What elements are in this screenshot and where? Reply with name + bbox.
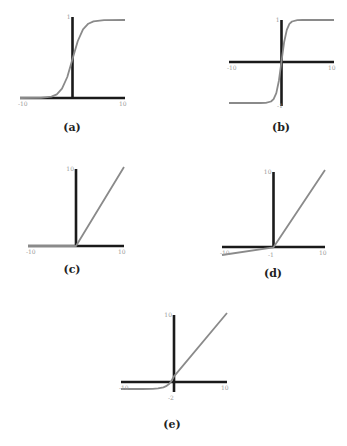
subplot-c: -101010(c) — [26, 165, 126, 276]
tick-label-x-min: -10 — [119, 384, 129, 391]
subplot-caption: (d) — [264, 267, 282, 280]
subplot-caption: (c) — [63, 263, 80, 276]
tick-label-y-min: -1 — [268, 251, 274, 258]
tick-label-x-max: 10 — [119, 100, 127, 107]
tick-label-x-min: -10 — [220, 249, 230, 256]
tick-label-y-min: -1 — [277, 102, 283, 109]
subplot-caption: (e) — [163, 418, 180, 431]
activation-functions-figure: -10101(a)-10101-1(b)-101010(c)-101010-1(… — [0, 0, 347, 446]
tick-label-x-max: 10 — [118, 248, 126, 255]
tick-label-y-max: 10 — [264, 168, 272, 175]
subplot-a: -10101(a) — [18, 13, 127, 134]
tick-label-x-max: 10 — [221, 384, 229, 391]
subplot-caption: (a) — [63, 121, 81, 134]
subplot-e: -101010-2(e) — [119, 311, 229, 431]
tick-label-y-min: -2 — [168, 394, 174, 401]
tick-label-x-min: -10 — [18, 100, 28, 107]
tick-label-y-max: 1 — [67, 13, 71, 20]
subplot-caption: (b) — [272, 121, 290, 134]
tick-label-x-min: -10 — [26, 248, 36, 255]
tick-label-x-max: 10 — [319, 249, 327, 256]
subplot-d: -101010-1(d) — [220, 168, 327, 280]
subplot-b: -10101-1(b) — [227, 16, 336, 134]
tick-label-x-max: 10 — [328, 64, 336, 71]
tick-label-y-max: 1 — [276, 16, 280, 23]
tick-label-x-min: -10 — [227, 64, 237, 71]
tick-label-y-max: 10 — [164, 311, 172, 318]
tick-label-y-max: 10 — [66, 165, 74, 172]
